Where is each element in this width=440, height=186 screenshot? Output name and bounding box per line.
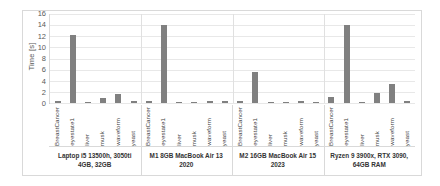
bar-musk[interactable] <box>374 93 380 103</box>
bar-slot <box>96 14 111 103</box>
bar-musk[interactable] <box>283 102 289 103</box>
x-tick-label: waveform <box>115 118 121 146</box>
bar-eyestate1[interactable] <box>344 25 350 103</box>
category-cell: eyestate1 <box>64 105 79 146</box>
x-tick-label: BreastCancer <box>145 107 151 146</box>
category-cell: liver <box>80 105 95 146</box>
category-group: BreastCancereyestate1livermuskwaveformye… <box>49 105 141 146</box>
bar-eyestate1[interactable] <box>70 35 76 103</box>
bar-liver[interactable] <box>268 102 274 103</box>
bar-slot <box>156 14 171 103</box>
category-cell: BreastCancer <box>141 105 156 146</box>
bar-slot <box>187 14 202 103</box>
category-cell: liver <box>263 105 278 146</box>
y-axis-tick-labels: 1614121086420 <box>26 14 46 104</box>
category-cell: liver <box>354 105 369 146</box>
bar-musk[interactable] <box>191 102 197 103</box>
category-cell: musk <box>278 105 293 146</box>
category-cell: waveform <box>202 105 217 146</box>
bar-slot <box>217 14 232 103</box>
category-cell: yeast <box>308 105 323 146</box>
category-cell: musk <box>95 105 110 146</box>
group-label-cell: Ryzen 9 3900x, RTX 3090, 64GB RAM <box>324 147 416 175</box>
bar-group <box>50 14 141 103</box>
x-tick-label: musk <box>374 131 380 146</box>
x-tick-label: liver <box>359 134 365 146</box>
bar-chart: Time [s] 1614121086420 BreastCancereyest… <box>0 0 440 186</box>
x-tick-label: eyestate1 <box>343 118 349 146</box>
gridline <box>50 103 415 104</box>
y-tick-label: 8 <box>42 55 46 63</box>
category-group: BreastCancereyestate1livermuskwaveformye… <box>141 105 233 146</box>
category-cell: BreastCancer <box>232 105 247 146</box>
bar-eyestate1[interactable] <box>252 72 258 103</box>
y-tick-label: 14 <box>38 22 46 30</box>
bar-group <box>141 14 232 103</box>
bar-group <box>324 14 415 103</box>
x-tick-label: waveform <box>389 118 395 146</box>
bar-slot <box>309 14 324 103</box>
bar-slot <box>369 14 384 103</box>
bar-slot <box>111 14 126 103</box>
bar-waveform[interactable] <box>298 101 304 103</box>
category-cell: musk <box>369 105 384 146</box>
bar-yeast[interactable] <box>313 102 319 103</box>
category-cell: BreastCancer <box>324 105 339 146</box>
bar-slot <box>172 14 187 103</box>
bar-slot <box>263 14 278 103</box>
x-tick-label: BreastCancer <box>237 107 243 146</box>
category-cell: waveform <box>293 105 308 146</box>
y-tick-label: 12 <box>38 33 46 41</box>
x-tick-label: liver <box>176 134 182 146</box>
bar-waveform[interactable] <box>115 94 121 103</box>
x-tick-label: musk <box>282 131 288 146</box>
y-tick-label: 0 <box>42 100 46 108</box>
bar-slot <box>385 14 400 103</box>
x-tick-label: musk <box>99 131 105 146</box>
x-tick-label: liver <box>267 134 273 146</box>
bar-groups <box>50 14 415 103</box>
category-group: BreastCancereyestate1livermuskwaveformye… <box>232 105 324 146</box>
bar-slot <box>293 14 308 103</box>
bar-waveform[interactable] <box>389 84 395 103</box>
bar-slot <box>248 14 263 103</box>
group-label-cell: Laptop i5 13500h, 3050ti 4GB, 32GB <box>49 147 141 175</box>
bar-yeast[interactable] <box>222 101 228 103</box>
x-tick-label: eyestate1 <box>69 118 75 146</box>
bar-waveform[interactable] <box>207 101 213 103</box>
bar-yeast[interactable] <box>131 101 137 103</box>
category-cell: eyestate1 <box>339 105 354 146</box>
category-cell: eyestate1 <box>247 105 262 146</box>
bar-breastcancer[interactable] <box>55 101 61 103</box>
bar-musk[interactable] <box>100 98 106 103</box>
group-label: M2 16GB MacBook Air 15 2023 <box>234 152 322 169</box>
x-tick-label: liver <box>84 134 90 146</box>
bar-liver[interactable] <box>85 102 91 103</box>
y-tick-label: 2 <box>42 89 46 97</box>
bar-breastcancer[interactable] <box>237 101 243 103</box>
bar-slot <box>354 14 369 103</box>
bar-yeast[interactable] <box>404 101 410 103</box>
bar-slot <box>400 14 415 103</box>
bar-slot <box>141 14 156 103</box>
bar-slot <box>278 14 293 103</box>
bar-slot <box>202 14 217 103</box>
group-label-cell: M1 8GB MacBook Air 13 2020 <box>141 147 233 175</box>
x-tick-label: yeast <box>221 131 227 146</box>
bar-group <box>233 14 324 103</box>
bar-breastcancer[interactable] <box>146 101 152 103</box>
category-cell: yeast <box>217 105 232 146</box>
x-tick-label: yeast <box>404 131 410 146</box>
bar-breastcancer[interactable] <box>328 97 334 103</box>
x-tick-label: yeast <box>313 131 319 146</box>
bar-slot <box>339 14 354 103</box>
bar-eyestate1[interactable] <box>161 25 167 103</box>
bar-slot <box>126 14 141 103</box>
x-tick-label: musk <box>191 131 197 146</box>
category-cell: waveform <box>385 105 400 146</box>
bar-liver[interactable] <box>359 102 365 103</box>
category-cell: waveform <box>110 105 125 146</box>
x-tick-label: BreastCancer <box>54 107 60 146</box>
y-tick-label: 6 <box>42 67 46 75</box>
bar-liver[interactable] <box>176 102 182 103</box>
